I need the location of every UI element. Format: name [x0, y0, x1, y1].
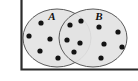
element-dot: [38, 20, 43, 25]
element-dot: [98, 55, 103, 60]
element-dot: [115, 29, 120, 34]
element-dot: [47, 36, 52, 41]
element-dot: [71, 49, 76, 54]
set-circle-b: [59, 9, 127, 67]
element-dot: [64, 37, 69, 42]
venn-diagram-figure: AB: [0, 0, 138, 81]
set-label-b: B: [94, 10, 102, 22]
element-dot: [77, 40, 82, 45]
element-dot: [96, 24, 101, 29]
element-dot: [119, 44, 124, 49]
set-label-a: A: [47, 10, 55, 22]
venn-diagram-canvas: AB: [0, 0, 138, 81]
element-dot: [78, 18, 83, 23]
element-dot: [26, 33, 31, 38]
element-dot: [101, 41, 106, 46]
element-dot: [67, 22, 72, 27]
element-dot: [55, 55, 60, 60]
element-dot: [37, 48, 42, 53]
